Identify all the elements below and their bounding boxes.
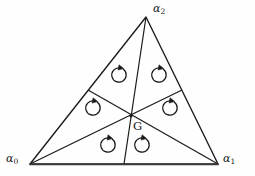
median-from-alpha-0: [30, 90, 182, 164]
centroid-label: G: [133, 121, 142, 133]
orientation-arrows-layer: [86, 65, 177, 152]
median-from-alpha-1: [88, 90, 218, 164]
orientation-arrow-right: [163, 98, 177, 115]
triangle-outline: [30, 17, 218, 164]
triangle-diagram-svg: [0, 0, 255, 176]
orientation-arrow-top-left: [112, 65, 126, 82]
centroid-point-group: [130, 115, 133, 118]
vertex-label-alpha-2: α2: [153, 3, 165, 16]
vertex-label-alpha-0: α0: [6, 153, 18, 166]
geometry-figure: α0 α1 α2 G: [0, 0, 255, 176]
centroid-point: [130, 115, 133, 118]
vertex-label-alpha-1: α1: [223, 153, 235, 166]
orientation-arrow-bottom-left: [101, 135, 115, 152]
median-lines-group: [30, 17, 218, 164]
orientation-arrow-bottom-right: [135, 135, 149, 152]
orientation-arrow-top-right: [152, 65, 166, 82]
triangle-outline-group: [30, 17, 218, 164]
orientation-arrow-left: [86, 98, 100, 115]
